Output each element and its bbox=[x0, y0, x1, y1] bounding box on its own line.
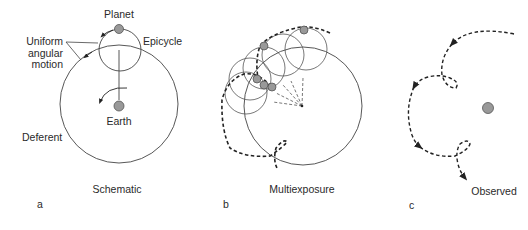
epicycle-circle bbox=[99, 29, 141, 71]
epicycle-circle bbox=[262, 34, 304, 76]
caption-observed: Observed bbox=[471, 186, 517, 197]
planet-label: Planet bbox=[104, 9, 134, 20]
earth-icon bbox=[483, 103, 494, 114]
earth-label: Earth bbox=[106, 116, 131, 127]
earth-icon bbox=[114, 101, 124, 111]
leader-line bbox=[66, 42, 98, 43]
epicycle-circle bbox=[285, 28, 327, 70]
epicycle-label: Epicycle bbox=[143, 36, 182, 47]
planet-icon bbox=[115, 25, 124, 34]
panel-c-observed bbox=[408, 31, 514, 178]
planet-icon bbox=[253, 75, 261, 83]
uniform-label-3: motion bbox=[20, 59, 63, 70]
panel-letter-a: a bbox=[37, 199, 43, 210]
planet-icon bbox=[268, 83, 276, 91]
panel-letter-c: c bbox=[409, 200, 414, 211]
planet-icon bbox=[260, 42, 268, 50]
epicycle-circle bbox=[229, 58, 271, 100]
caption-schematic: Schematic bbox=[92, 184, 141, 195]
planet-icon bbox=[300, 26, 308, 34]
observed-path bbox=[414, 44, 457, 88]
observed-path bbox=[408, 87, 420, 147]
planet-icon bbox=[260, 81, 268, 89]
rotation-arrow-icon bbox=[100, 88, 127, 102]
panel-b-multiexposure bbox=[222, 26, 362, 168]
deferent-arrow-icon bbox=[85, 52, 92, 57]
observed-path bbox=[452, 31, 514, 44]
deferent-label: Deferent bbox=[22, 132, 62, 143]
leader-line bbox=[66, 42, 81, 60]
radius-lines bbox=[273, 78, 303, 106]
panel-letter-b: b bbox=[223, 199, 229, 210]
diagram-canvas bbox=[0, 0, 528, 230]
caption-multiexposure: Multiexposure bbox=[269, 184, 334, 195]
uniform-label-1: Uniform bbox=[20, 36, 63, 47]
observed-path bbox=[420, 141, 470, 178]
